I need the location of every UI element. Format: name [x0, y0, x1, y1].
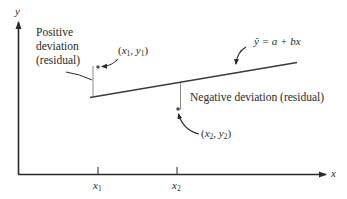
regression-equation: ŷ = a + bx — [254, 36, 301, 47]
point2-y-sub: 2 — [224, 132, 228, 141]
x2-tick-sub: 2 — [177, 184, 181, 193]
point1-label: (x1, y1) — [118, 45, 148, 58]
y-axis-label: y — [15, 6, 20, 17]
point1-x-sub: 1 — [127, 49, 131, 58]
positive-deviation-label: Positive deviation (residual) — [36, 25, 80, 67]
x2-tick-label: x2 — [172, 180, 181, 193]
x1-tick-sub: 1 — [98, 184, 102, 193]
point1-y-sub: 1 — [141, 49, 145, 58]
point2-label-arrow — [179, 114, 200, 134]
x-axis-label: x — [331, 168, 336, 179]
positive-deviation-line1: Positive — [36, 25, 80, 39]
regression-residual-diagram: y x x1 x2 Positive deviation (residual) … — [0, 0, 347, 199]
positive-deviation-line2: deviation — [36, 39, 80, 53]
point2-label: (x2, y2) — [201, 128, 231, 141]
point1-label-arrow — [102, 59, 118, 67]
point-x1-y1 — [96, 65, 100, 69]
x1-tick-label: x1 — [93, 180, 102, 193]
point2-x-sub: 2 — [210, 132, 214, 141]
equation-rhs: = a + bx — [262, 35, 301, 47]
y-hat: ŷ — [254, 35, 259, 47]
equation-arrow — [236, 47, 246, 64]
positive-deviation-leader — [66, 72, 92, 80]
point-x2-y2 — [176, 107, 180, 111]
negative-deviation-label: Negative deviation (residual) — [190, 90, 324, 104]
positive-deviation-line3: (residual) — [36, 53, 80, 67]
